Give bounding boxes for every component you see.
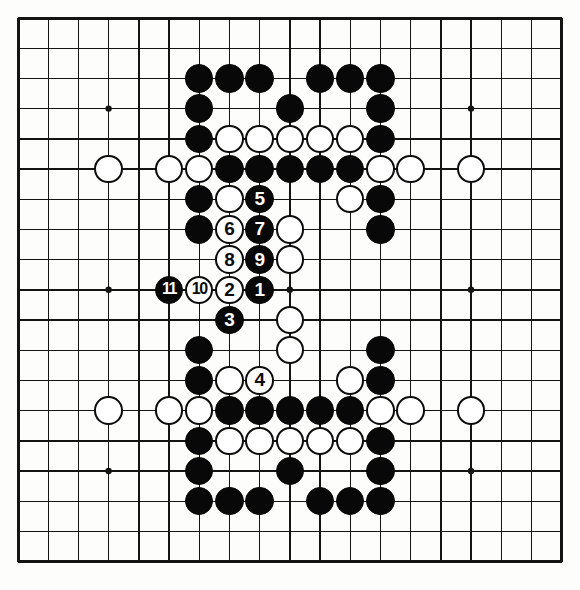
- go-diagram: 5678911102134: [0, 0, 580, 590]
- go-stone-white: [276, 125, 304, 153]
- go-stone-white: [336, 366, 364, 394]
- move-number-label: 11: [162, 281, 176, 297]
- go-stone-black: [276, 457, 304, 485]
- go-stone-white: 4: [245, 366, 273, 394]
- go-stone-black: [336, 396, 364, 424]
- go-stone-black: [306, 64, 334, 92]
- go-stone-white: [245, 125, 273, 153]
- go-stone-black: [366, 336, 394, 364]
- go-stone-white: [94, 396, 122, 424]
- go-stone-black: [366, 94, 394, 122]
- star-point: [105, 468, 111, 474]
- go-stone-white: [306, 427, 334, 455]
- go-stone-black: [185, 94, 213, 122]
- go-stone-white: [245, 427, 273, 455]
- go-stone-white: [276, 427, 304, 455]
- go-stone-black: [366, 125, 394, 153]
- go-stone-black: [185, 215, 213, 243]
- go-stone-black: [215, 64, 243, 92]
- star-point: [287, 287, 293, 293]
- go-stone-white: [276, 215, 304, 243]
- go-stone-white: [276, 306, 304, 334]
- go-stone-black: [306, 396, 334, 424]
- go-stone-white: [185, 396, 213, 424]
- move-number-label: 4: [255, 370, 265, 389]
- go-stone-white: 2: [215, 276, 243, 304]
- go-stone-white: [276, 245, 304, 273]
- go-stone-black: [276, 155, 304, 183]
- go-stone-white: [94, 155, 122, 183]
- go-stone-black: [245, 155, 273, 183]
- move-number-label: 10: [192, 281, 207, 297]
- go-stone-white: [215, 427, 243, 455]
- move-number-label: 6: [224, 219, 234, 238]
- star-point: [105, 105, 111, 111]
- move-number-label: 8: [224, 250, 234, 269]
- move-number-label: 2: [224, 280, 234, 299]
- go-stone-white: [396, 155, 424, 183]
- go-stone-white: [306, 125, 334, 153]
- go-stone-black: [366, 487, 394, 515]
- go-stone-black: [366, 457, 394, 485]
- go-stone-black: [366, 215, 394, 243]
- go-stone-black: 3: [215, 306, 243, 334]
- go-stone-black: [276, 396, 304, 424]
- move-number-label: 9: [255, 250, 265, 269]
- go-stone-black: 1: [245, 276, 273, 304]
- go-stone-black: [215, 396, 243, 424]
- go-stone-black: [185, 366, 213, 394]
- go-stone-black: [245, 396, 273, 424]
- go-stone-black: 11: [155, 276, 183, 304]
- go-stone-white: [215, 125, 243, 153]
- go-stone-white: [396, 396, 424, 424]
- star-point: [468, 468, 474, 474]
- go-stone-black: [366, 427, 394, 455]
- star-point: [105, 287, 111, 293]
- move-number-label: 1: [255, 280, 265, 299]
- go-stone-black: [245, 487, 273, 515]
- go-stone-white: [155, 396, 183, 424]
- go-stone-black: [215, 155, 243, 183]
- go-stone-white: 8: [215, 245, 243, 273]
- go-stone-white: [215, 185, 243, 213]
- go-stone-black: [336, 64, 364, 92]
- go-stone-black: [215, 487, 243, 515]
- go-stone-black: 7: [245, 215, 273, 243]
- go-stone-black: [366, 366, 394, 394]
- move-number-label: 3: [224, 310, 234, 329]
- move-number-label: 7: [255, 219, 265, 238]
- go-stone-white: [366, 396, 394, 424]
- star-point: [468, 105, 474, 111]
- star-point: [468, 287, 474, 293]
- go-stone-black: 9: [245, 245, 273, 273]
- go-board-grid: [0, 0, 580, 590]
- go-stone-black: [366, 64, 394, 92]
- move-number-label: 5: [255, 189, 265, 208]
- go-stone-black: [185, 64, 213, 92]
- go-stone-black: 5: [245, 185, 273, 213]
- go-stone-white: [457, 396, 485, 424]
- go-stone-black: [276, 94, 304, 122]
- go-stone-white: [215, 366, 243, 394]
- go-stone-white: 6: [215, 215, 243, 243]
- go-stone-white: [366, 155, 394, 183]
- go-stone-black: [366, 185, 394, 213]
- go-stone-black: [245, 64, 273, 92]
